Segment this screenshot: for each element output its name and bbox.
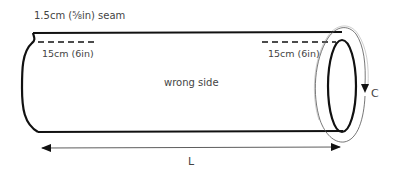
tube-bottom-edge [38,131,343,132]
length-arrow [42,147,340,148]
circumference-arrowhead-icon [361,84,369,93]
tube-left-edge [22,33,38,132]
seam-allowance-label: 1.5cm (⅝in) seam [34,11,125,21]
length-label: L [188,156,194,167]
top-seam-line [33,32,342,33]
left-opening-label: 15cm (6in) [42,49,94,59]
circumference-label: C [371,88,379,99]
right-opening-label: 15cm (6in) [268,49,320,59]
circumference-indicator [314,26,369,142]
tube-right-opening [328,40,356,132]
wrong-side-label: wrong side [164,78,219,88]
